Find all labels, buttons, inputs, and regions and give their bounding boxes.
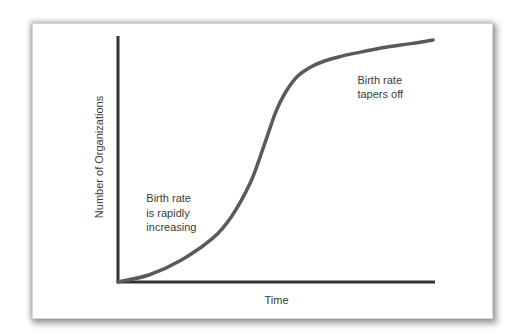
annotation-line: increasing: [146, 221, 196, 233]
s-curve-chart: Time Number of Organizations Birth ratei…: [0, 0, 525, 336]
x-axis-label: Time: [264, 294, 288, 306]
annotation-line: Birth rate: [146, 192, 191, 204]
annotations: Birth rateis rapidlyincreasingBirth rate…: [146, 74, 404, 234]
y-axis-label: Number of Organizations: [93, 95, 105, 218]
annotation-early: Birth rateis rapidlyincreasing: [146, 192, 196, 233]
annotation-line: tapers off: [357, 88, 404, 100]
annotation-line: Birth rate: [357, 74, 402, 86]
annotation-late: Birth ratetapers off: [357, 74, 404, 101]
annotation-line: is rapidly: [146, 207, 190, 219]
